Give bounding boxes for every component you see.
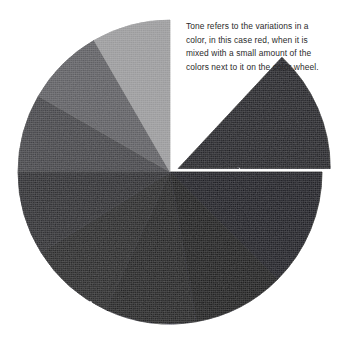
tone-wheel-figure: Tone refers to the variations in a color… (0, 0, 343, 342)
caption-line-2: color, in this case red, when it is (186, 34, 338, 48)
caption-line-4: colors next to it on the color wheel. (186, 61, 338, 75)
caption-line-3: mixed with a small amount of the (186, 47, 338, 61)
caption-text: Tone refers to the variations in a color… (186, 20, 338, 74)
caption-line-1: Tone refers to the variations in a (186, 20, 338, 34)
